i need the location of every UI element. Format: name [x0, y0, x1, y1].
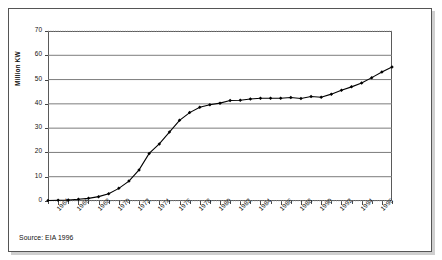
data-point-marker	[259, 97, 263, 101]
data-point-marker	[289, 96, 293, 100]
data-point-marker	[238, 98, 242, 102]
data-point-marker	[97, 195, 101, 199]
data-point-marker	[319, 96, 323, 100]
data-point-marker	[249, 97, 253, 101]
data-point-marker	[228, 99, 232, 103]
gridlines-group	[48, 31, 392, 201]
series-markers-group	[46, 65, 394, 202]
data-point-marker	[330, 92, 334, 96]
data-point-marker	[279, 97, 283, 101]
chart-page: Net Annual Generation From Gas Turbines …	[0, 0, 442, 260]
data-point-marker	[87, 197, 91, 201]
data-point-marker	[77, 198, 80, 202]
data-point-marker	[299, 97, 303, 101]
series-polyline	[48, 67, 392, 201]
source-note: Source: EIA 1996	[19, 234, 74, 241]
data-point-marker	[350, 85, 354, 89]
data-series-line	[48, 31, 392, 201]
data-point-marker	[309, 95, 313, 99]
data-point-marker	[340, 89, 344, 93]
data-point-marker	[269, 97, 273, 101]
